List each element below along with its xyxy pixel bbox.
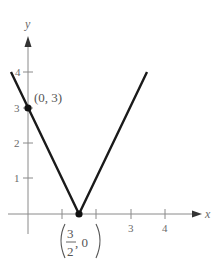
y-axis-arrow-icon — [25, 36, 32, 47]
point-vertex — [75, 210, 82, 217]
y-tick-label-2: 2 — [14, 137, 20, 149]
label-vertex: 3 2 , 0 — [61, 224, 100, 259]
vertex-denominator: 2 — [67, 244, 74, 259]
point-y-intercept — [24, 104, 31, 111]
y-tick-label-4: 4 — [15, 66, 21, 78]
axes — [8, 36, 202, 234]
vertex-numerator: 3 — [67, 226, 74, 241]
x-tick-label-3: 3 — [128, 222, 134, 234]
y-tick-label-3: 3 — [14, 102, 20, 114]
y-tick-label-1: 1 — [14, 172, 20, 184]
x-axis-label: x — [204, 207, 211, 221]
y-axis-label: y — [24, 17, 31, 31]
graph-canvas: 1 2 3 4 3 4 x y (0, 3) 3 2 , 0 — [0, 0, 218, 268]
x-tick-label-4: 4 — [162, 222, 168, 234]
label-y-intercept: (0, 3) — [34, 90, 62, 105]
x-axis-arrow-icon — [192, 211, 202, 218]
vertex-rest: , 0 — [75, 235, 88, 250]
